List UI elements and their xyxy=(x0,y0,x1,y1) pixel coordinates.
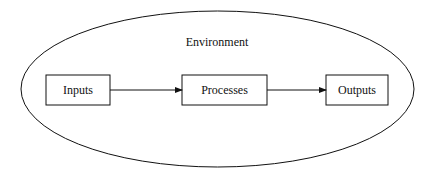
outputs-label: Outputs xyxy=(338,83,376,97)
node-processes: Processes xyxy=(182,75,267,105)
system-diagram: Environment Inputs Processes Outputs xyxy=(0,0,432,175)
inputs-label: Inputs xyxy=(63,83,93,97)
node-inputs: Inputs xyxy=(46,75,110,105)
processes-label: Processes xyxy=(201,83,248,97)
node-outputs: Outputs xyxy=(326,75,388,105)
environment-label: Environment xyxy=(186,35,249,49)
